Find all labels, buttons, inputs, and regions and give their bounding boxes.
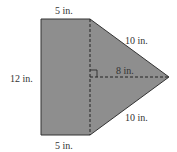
label-upper-slant: 10 in.	[125, 35, 148, 46]
label-top: 5 in.	[55, 5, 73, 16]
label-left: 12 in.	[10, 73, 33, 84]
label-bottom: 5 in.	[55, 140, 73, 151]
label-lower-slant: 10 in.	[125, 112, 148, 123]
label-height: 8 in.	[116, 65, 134, 76]
composite-figure: 5 in. 5 in. 12 in. 10 in. 10 in. 8 in.	[0, 0, 177, 152]
